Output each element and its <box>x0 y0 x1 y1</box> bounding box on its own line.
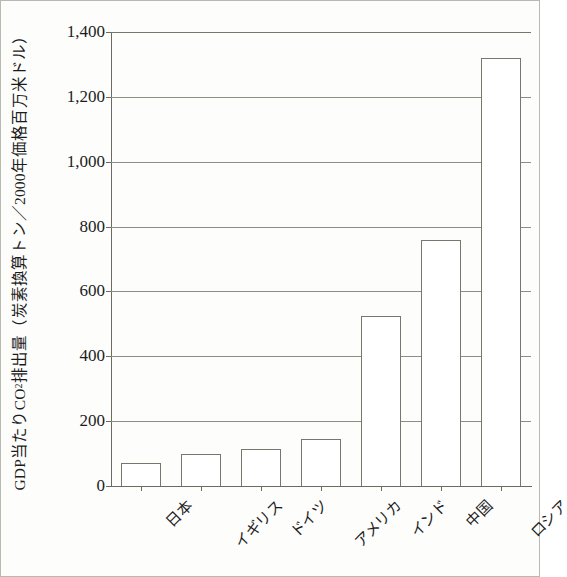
bar <box>361 316 401 486</box>
gridline <box>111 421 531 422</box>
y-axis-tick-mark <box>106 356 111 357</box>
x-axis-tick-labels: 日本イギリスドイツアメリカインド中国ロシア <box>111 488 531 577</box>
gridline <box>111 356 531 357</box>
y-axis-tick-label: 600 <box>39 282 105 299</box>
y-axis-tick-label: 200 <box>39 412 105 429</box>
y-axis-tick-mark <box>106 291 111 292</box>
y-axis-tick-labels: 02004006008001,0001,2001,400 <box>37 32 105 486</box>
y-axis-tick-mark <box>106 162 111 163</box>
plot-area <box>111 32 531 486</box>
y-axis-title-post: 排出量（炭素換算トン／2000年価格百万米ドル） <box>7 27 29 383</box>
y-axis-tick-label: 1,400 <box>39 23 105 40</box>
x-axis-category-label: アメリカ <box>352 498 404 550</box>
gridline <box>111 291 531 292</box>
x-axis-category-label: 日本 <box>164 498 196 530</box>
gridline <box>111 32 531 33</box>
y-axis-tick-mark <box>106 32 111 33</box>
y-axis-tick-mark <box>106 227 111 228</box>
y-axis-tick-mark <box>106 486 111 487</box>
y-axis-title-subscript: 2 <box>13 383 24 388</box>
y-axis-tick-mark <box>106 97 111 98</box>
y-axis-title-pre: GDP当たりCO <box>7 388 29 490</box>
x-axis-category-label: ロシア <box>528 498 567 540</box>
bar <box>301 439 341 486</box>
y-axis-title: GDP当たりCO2排出量（炭素換算トン／2000年価格百万米ドル） <box>1 9 35 509</box>
gridline <box>111 227 531 228</box>
y-axis-tick-label: 0 <box>39 477 105 494</box>
gridline <box>111 97 531 98</box>
bar <box>121 463 161 486</box>
y-axis-tick-label: 400 <box>39 347 105 364</box>
x-axis-category-label: イギリス <box>233 498 286 551</box>
bar <box>481 58 521 486</box>
gridline <box>111 162 531 163</box>
bar <box>181 454 221 486</box>
bar <box>241 449 281 486</box>
x-axis-category-label: インド <box>408 498 450 540</box>
y-axis-tick-label: 1,200 <box>39 88 105 105</box>
x-axis-category-label: ドイツ <box>288 498 330 540</box>
y-axis-tick-label: 1,000 <box>39 153 105 170</box>
x-axis-category-label: 中国 <box>464 498 496 530</box>
y-axis-tick-mark <box>106 421 111 422</box>
bar <box>421 240 461 486</box>
y-axis-tick-label: 800 <box>39 218 105 235</box>
